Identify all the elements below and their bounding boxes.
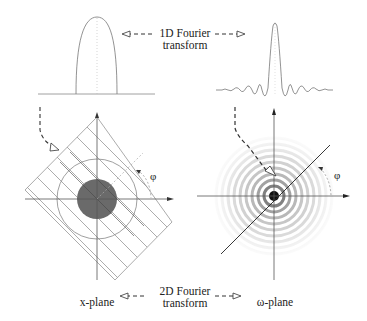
omega-plane-vertical-arrow-icon — [272, 108, 276, 115]
x-plane-vertical-arrow-icon — [95, 112, 99, 118]
bottom-transform-annotation: x-plane 2D Fourier transform ω-plane — [80, 285, 293, 309]
sinc-curve — [216, 23, 333, 96]
top-left-arrowhead-icon — [122, 31, 130, 37]
top-right-arrowhead-icon — [237, 31, 245, 37]
bottom-transform-label-line1: 2D Fourier — [160, 285, 211, 297]
x-plane-label: x-plane — [80, 296, 114, 309]
left-projection-dashed-arrow — [40, 107, 52, 146]
top-transform-label-line1: 1D Fourier — [160, 27, 211, 39]
bottom-left-arrowhead-icon — [120, 293, 128, 299]
omega-plane-panel: φ — [197, 108, 350, 280]
omega-plane-label: ω-plane — [257, 296, 293, 309]
top-transform-label-line2: transform — [163, 39, 208, 51]
fourier-slice-diagram: 1D Fourier transform — [0, 0, 367, 321]
x-plane-angle-arrow-icon — [136, 170, 141, 174]
bottom-right-arrowhead-icon — [233, 293, 241, 299]
left-projection-arrowhead-icon — [50, 143, 59, 151]
top-transform-annotation: 1D Fourier transform — [122, 27, 245, 51]
x-plane-horizontal-arrow-icon — [167, 197, 174, 201]
projection-profile — [38, 17, 155, 94]
bottom-transform-label-line2: transform — [163, 297, 208, 309]
omega-plane-horizontal-arrow-icon — [343, 194, 350, 198]
profile-hump — [76, 17, 117, 94]
omega-plane-angle-label: φ — [334, 169, 340, 181]
fourier-profile — [216, 23, 333, 96]
x-plane-angle-label: φ — [150, 170, 156, 182]
